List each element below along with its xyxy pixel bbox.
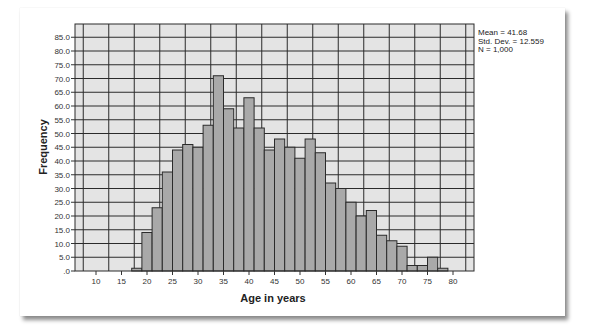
y-tick-label: 85.0 bbox=[54, 33, 70, 42]
histogram-bar bbox=[387, 241, 397, 271]
x-tick-label: 45 bbox=[270, 277, 279, 286]
histogram-bar bbox=[162, 172, 172, 271]
x-axis-ticks: 101520253035404550556065707580 bbox=[92, 271, 458, 286]
y-tick-label: 20.0 bbox=[54, 212, 70, 221]
x-tick-label: 80 bbox=[449, 277, 458, 286]
y-tick-label: 35.0 bbox=[54, 171, 70, 180]
x-tick-label: 20 bbox=[143, 277, 152, 286]
y-tick-label: 30.0 bbox=[54, 185, 70, 194]
x-tick-label: 25 bbox=[168, 277, 177, 286]
x-tick-label: 60 bbox=[347, 277, 356, 286]
y-tick-label: 25.0 bbox=[54, 198, 70, 207]
histogram-bar bbox=[264, 150, 274, 271]
histogram-bar bbox=[377, 235, 387, 271]
histogram-bar bbox=[193, 147, 203, 271]
histogram-bar bbox=[397, 246, 407, 271]
y-axis-ticks: .05.010.015.020.025.030.035.040.045.050.… bbox=[54, 33, 75, 276]
y-tick-label: 15.0 bbox=[54, 226, 70, 235]
y-tick-label: 45.0 bbox=[54, 143, 70, 152]
y-tick-label: 10.0 bbox=[54, 240, 70, 249]
histogram-bar bbox=[315, 153, 325, 271]
x-tick-label: 50 bbox=[296, 277, 305, 286]
histogram-bar bbox=[336, 189, 346, 272]
y-tick-label: .0 bbox=[63, 267, 70, 276]
histogram-bar bbox=[428, 257, 438, 271]
histogram-bar bbox=[183, 145, 193, 272]
x-tick-label: 35 bbox=[219, 277, 228, 286]
histogram-bar bbox=[142, 233, 152, 272]
y-tick-label: 75.0 bbox=[54, 61, 70, 70]
histogram-bar bbox=[356, 216, 366, 271]
x-tick-label: 10 bbox=[92, 277, 101, 286]
x-tick-label: 15 bbox=[117, 277, 126, 286]
histogram-bar bbox=[346, 202, 356, 271]
y-tick-label: 70.0 bbox=[54, 75, 70, 84]
y-tick-label: 60.0 bbox=[54, 102, 70, 111]
histogram-bar bbox=[213, 76, 223, 271]
histogram-bar bbox=[275, 139, 285, 271]
y-tick-label: 65.0 bbox=[54, 88, 70, 97]
x-tick-label: 65 bbox=[372, 277, 381, 286]
histogram-bar bbox=[244, 98, 254, 271]
histogram-bar bbox=[285, 147, 295, 271]
histogram-bar bbox=[224, 109, 234, 271]
histogram-bar bbox=[305, 139, 315, 271]
x-tick-label: 30 bbox=[194, 277, 203, 286]
y-tick-label: 5.0 bbox=[59, 253, 71, 262]
histogram-bar bbox=[407, 266, 417, 272]
x-tick-label: 75 bbox=[423, 277, 432, 286]
y-tick-label: 50.0 bbox=[54, 130, 70, 139]
x-tick-label: 70 bbox=[398, 277, 407, 286]
histogram-bar bbox=[417, 266, 427, 272]
histogram-bar bbox=[254, 128, 264, 271]
x-axis-title: Age in years bbox=[240, 292, 305, 304]
y-tick-label: 40.0 bbox=[54, 157, 70, 166]
histogram-bar bbox=[366, 211, 376, 272]
y-axis-title: Frequency bbox=[37, 118, 49, 175]
histogram-bar bbox=[203, 125, 213, 271]
y-tick-label: 55.0 bbox=[54, 116, 70, 125]
x-tick-label: 55 bbox=[321, 277, 330, 286]
y-tick-label: 80.0 bbox=[54, 47, 70, 56]
summary-statistics: Mean = 41.68 Std. Dev. = 12.559 N = 1,00… bbox=[478, 29, 544, 55]
histogram-bar bbox=[152, 208, 162, 271]
histogram-bar bbox=[234, 128, 244, 271]
x-tick-label: 40 bbox=[245, 277, 254, 286]
histogram-bar bbox=[295, 158, 305, 271]
histogram-bar bbox=[173, 150, 183, 271]
histogram-bar bbox=[326, 183, 336, 271]
n-label: N = 1,000 bbox=[478, 46, 544, 55]
